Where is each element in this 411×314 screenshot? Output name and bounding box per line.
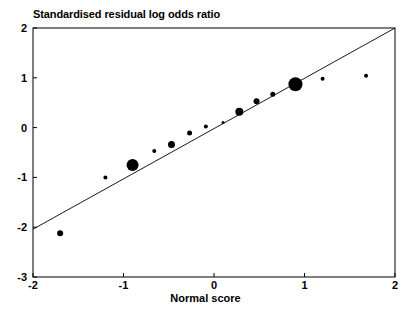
data-point: [204, 125, 208, 129]
y-tick-label: 1: [3, 72, 27, 84]
data-point: [222, 121, 225, 124]
y-tick-label: -1: [3, 171, 27, 183]
y-tick-label: -2: [3, 221, 27, 233]
x-tick-label: -1: [112, 279, 136, 291]
x-tick-label: 1: [293, 279, 317, 291]
x-tick-label: -2: [21, 279, 45, 291]
data-point: [321, 77, 325, 81]
data-point: [187, 131, 192, 136]
axes-frame: [33, 28, 395, 277]
plot-area: [0, 0, 411, 314]
x-tick-label: 2: [383, 279, 407, 291]
data-points: [57, 74, 368, 236]
data-point: [270, 92, 275, 97]
y-tick-label: 2: [3, 22, 27, 34]
data-point: [103, 175, 107, 179]
data-point: [235, 108, 243, 116]
reference-line: [33, 28, 395, 229]
data-point: [152, 149, 156, 153]
data-point: [254, 98, 260, 104]
data-point: [288, 77, 302, 91]
data-point: [364, 74, 368, 78]
data-point: [57, 230, 63, 236]
y-tick-label: 0: [3, 122, 27, 134]
x-tick-label: 0: [202, 279, 226, 291]
data-point: [168, 141, 175, 148]
normal-probability-plot-figure: Standardised residual log odds ratio 210…: [0, 0, 411, 314]
x-axis-label: Normal score: [0, 292, 411, 304]
axis-ticks: [33, 28, 395, 277]
data-point: [127, 159, 139, 171]
